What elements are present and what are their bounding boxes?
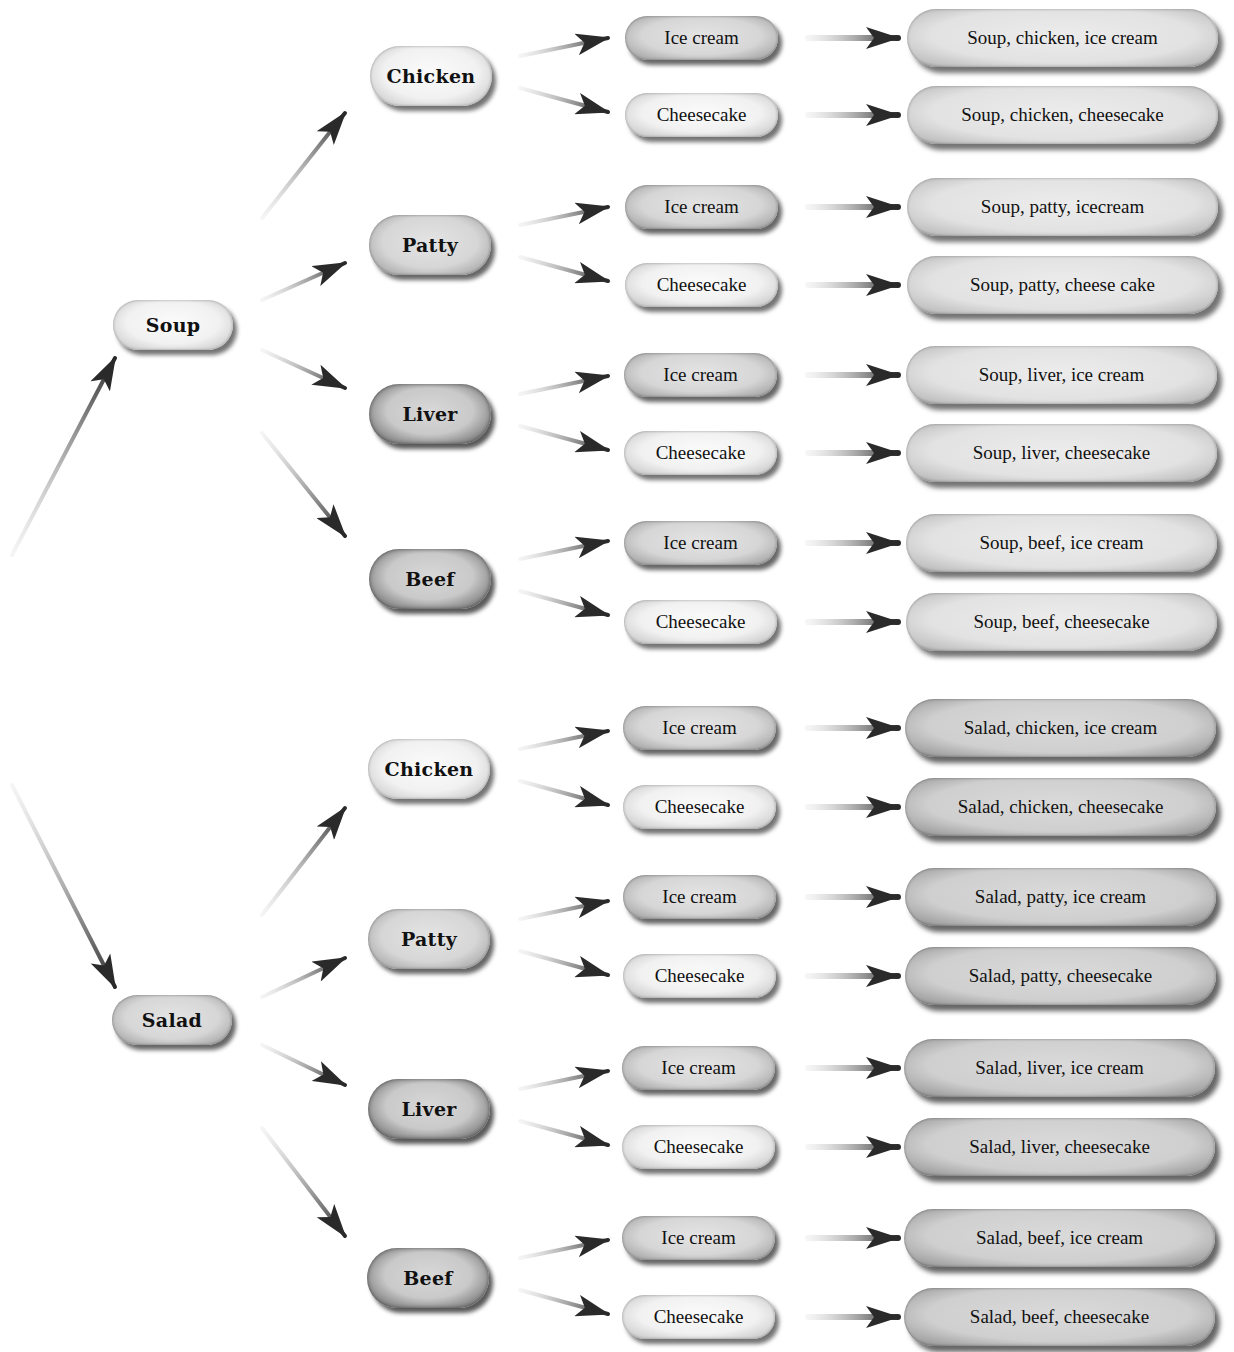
outcome-label: Soup, patty, icecream: [981, 196, 1144, 218]
outcome-node: Salad, patty, cheesecake: [905, 947, 1216, 1005]
dessert-node-cheesecake: Cheesecake: [622, 1125, 775, 1169]
main-node-salad-chicken: Chicken: [368, 739, 490, 799]
arrow: [520, 1071, 608, 1089]
arrow: [520, 426, 608, 450]
arrow: [12, 358, 115, 555]
node-label: Ice cream: [661, 1227, 735, 1249]
outcome-node: Soup, beef, ice cream: [906, 514, 1217, 572]
main-node-soup-liver: Liver: [369, 384, 491, 444]
arrow: [262, 433, 345, 536]
outcome-label: Salad, patty, ice cream: [975, 886, 1146, 908]
dessert-node-ice-cream: Ice cream: [623, 875, 776, 919]
main-node-soup-beef: Beef: [369, 549, 491, 609]
outcome-node: Salad, chicken, ice cream: [905, 699, 1216, 757]
arrow: [262, 1128, 345, 1236]
arrow: [520, 541, 608, 559]
node-label: Cheesecake: [656, 611, 746, 633]
arrow: [520, 591, 608, 615]
outcome-node: Soup, liver, cheesecake: [906, 424, 1217, 482]
node-label: Cheesecake: [654, 1136, 744, 1158]
outcome-node: Soup, beef, cheesecake: [906, 593, 1217, 651]
dessert-node-ice-cream: Ice cream: [625, 16, 778, 60]
outcome-label: Soup, patty, cheese cake: [970, 274, 1155, 296]
outcome-label: Soup, liver, cheesecake: [973, 442, 1151, 464]
outcome-node: Soup, liver, ice cream: [906, 346, 1217, 404]
node-label: Cheesecake: [656, 442, 746, 464]
outcome-label: Salad, chicken, cheesecake: [958, 796, 1164, 818]
dessert-node-cheesecake: Cheesecake: [625, 263, 778, 307]
arrow: [520, 207, 608, 225]
arrow: [520, 731, 608, 749]
root-node-soup: Soup: [113, 300, 233, 350]
node-label: Chicken: [387, 65, 476, 87]
outcome-node: Salad, patty, ice cream: [905, 868, 1216, 926]
outcome-label: Salad, patty, cheesecake: [969, 965, 1152, 987]
node-label: Ice cream: [663, 532, 737, 554]
outcome-label: Salad, beef, cheesecake: [970, 1306, 1149, 1328]
arrow: [520, 1290, 608, 1314]
node-label: Liver: [402, 403, 457, 425]
node-label: Cheesecake: [657, 104, 747, 126]
node-label: Beef: [403, 1267, 453, 1289]
dessert-node-ice-cream: Ice cream: [623, 706, 776, 750]
dessert-node-cheesecake: Cheesecake: [624, 431, 777, 475]
node-label: Salad: [142, 1009, 202, 1031]
node-label: Ice cream: [661, 1057, 735, 1079]
node-label: Patty: [401, 928, 457, 950]
arrow: [520, 1121, 608, 1145]
dessert-node-ice-cream: Ice cream: [622, 1046, 775, 1090]
node-label: Soup: [146, 314, 201, 336]
outcome-label: Salad, chicken, ice cream: [964, 717, 1158, 739]
outcome-label: Salad, beef, ice cream: [976, 1227, 1143, 1249]
node-label: Ice cream: [662, 886, 736, 908]
arrow: [520, 1240, 608, 1258]
node-label: Cheesecake: [655, 965, 745, 987]
arrow: [520, 88, 608, 112]
node-label: Patty: [402, 234, 458, 256]
tree-diagram: Soup Salad Chicken Patty Liver Beef Chic…: [0, 0, 1234, 1352]
main-node-salad-beef: Beef: [367, 1248, 489, 1308]
arrow: [520, 257, 608, 281]
arrow: [262, 958, 345, 997]
arrow: [262, 263, 345, 300]
arrow: [520, 376, 608, 394]
dessert-node-cheesecake: Cheesecake: [623, 954, 776, 998]
main-node-soup-chicken: Chicken: [370, 46, 492, 106]
dessert-node-cheesecake: Cheesecake: [625, 93, 778, 137]
node-label: Ice cream: [662, 717, 736, 739]
outcome-node: Soup, patty, cheese cake: [907, 256, 1218, 314]
arrow: [262, 1045, 345, 1085]
arrow: [520, 951, 608, 975]
outcome-label: Soup, beef, cheesecake: [973, 611, 1149, 633]
outcome-label: Soup, beef, ice cream: [979, 532, 1143, 554]
node-label: Ice cream: [664, 27, 738, 49]
node-label: Ice cream: [664, 196, 738, 218]
outcome-label: Salad, liver, cheesecake: [969, 1136, 1150, 1158]
main-node-salad-patty: Patty: [368, 909, 490, 969]
outcome-node: Salad, chicken, cheesecake: [905, 778, 1216, 836]
node-label: Beef: [405, 568, 455, 590]
arrow: [520, 901, 608, 919]
node-label: Cheesecake: [657, 274, 747, 296]
outcome-node: Salad, beef, ice cream: [904, 1209, 1215, 1267]
main-node-salad-liver: Liver: [368, 1079, 490, 1139]
outcome-node: Soup, chicken, ice cream: [907, 9, 1218, 67]
arrow: [262, 350, 345, 388]
outcome-node: Salad, liver, cheesecake: [904, 1118, 1215, 1176]
arrow: [262, 808, 345, 915]
node-label: Ice cream: [663, 364, 737, 386]
node-label: Cheesecake: [654, 1306, 744, 1328]
arrow: [520, 38, 608, 56]
main-node-soup-patty: Patty: [369, 215, 491, 275]
outcome-node: Salad, beef, cheesecake: [904, 1288, 1215, 1346]
arrow: [262, 113, 345, 218]
outcome-node: Soup, patty, icecream: [907, 178, 1218, 236]
dessert-node-ice-cream: Ice cream: [624, 521, 777, 565]
node-label: Cheesecake: [655, 796, 745, 818]
outcome-label: Soup, chicken, cheesecake: [961, 104, 1164, 126]
outcome-label: Soup, chicken, ice cream: [967, 27, 1157, 49]
dessert-node-ice-cream: Ice cream: [625, 185, 778, 229]
arrow: [520, 781, 608, 805]
outcome-label: Soup, liver, ice cream: [979, 364, 1144, 386]
outcome-node: Soup, chicken, cheesecake: [907, 86, 1218, 144]
